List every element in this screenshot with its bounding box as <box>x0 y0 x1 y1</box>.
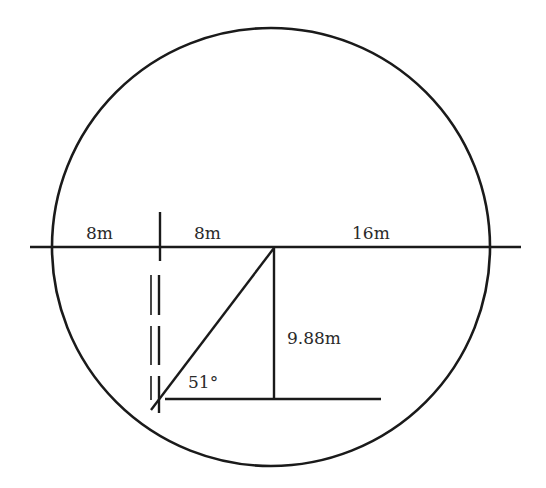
label-middle-segment: 8m <box>194 223 221 243</box>
label-angle: 51° <box>188 372 218 392</box>
geometry-diagram: 8m 8m 16m 9.88m 51° <box>0 0 546 488</box>
label-right-segment: 16m <box>352 223 390 243</box>
label-height: 9.88m <box>287 328 341 348</box>
label-left-segment: 8m <box>86 223 113 243</box>
dashed-double-line <box>151 275 159 413</box>
